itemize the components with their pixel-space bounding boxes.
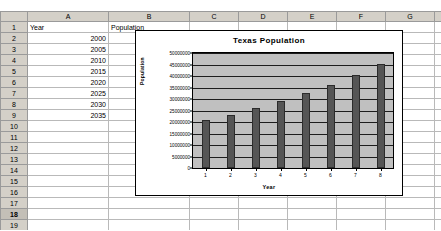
cell-h15[interactable] xyxy=(435,176,441,187)
row-header-17[interactable]: 17 xyxy=(1,198,28,209)
row-header-3[interactable]: 3 xyxy=(1,44,28,55)
row-header-10[interactable]: 10 xyxy=(1,121,28,132)
cell-c17[interactable] xyxy=(190,198,239,209)
cell-f18[interactable] xyxy=(337,209,386,220)
cell-h13[interactable] xyxy=(435,154,441,165)
chart-bar[interactable] xyxy=(227,115,235,168)
cell-a13[interactable] xyxy=(28,154,109,165)
row-header-16[interactable]: 16 xyxy=(1,187,28,198)
table-row[interactable]: 17 xyxy=(1,198,441,209)
cell-h3[interactable] xyxy=(435,44,441,55)
cell-a18[interactable] xyxy=(28,209,109,220)
row-header-2[interactable]: 2 xyxy=(1,33,28,44)
cell-h18[interactable] xyxy=(435,209,441,220)
table-row[interactable]: 19 xyxy=(1,220,441,231)
column-header-c[interactable]: C xyxy=(190,12,239,22)
cell-a12[interactable] xyxy=(28,143,109,154)
cell-h6[interactable] xyxy=(435,77,441,88)
column-header-d[interactable]: D xyxy=(239,12,288,22)
column-header-f[interactable]: F xyxy=(337,12,386,22)
cell-b18[interactable] xyxy=(109,209,190,220)
row-header-11[interactable]: 11 xyxy=(1,132,28,143)
cell-b17[interactable] xyxy=(109,198,190,209)
row-header-19[interactable]: 19 xyxy=(1,220,28,231)
cell-h12[interactable] xyxy=(435,143,441,154)
cell-f19[interactable] xyxy=(337,220,386,231)
embedded-chart[interactable]: Texas Population Population 500000004500… xyxy=(135,30,403,196)
cell-a11[interactable] xyxy=(28,132,109,143)
column-header-e[interactable]: E xyxy=(288,12,337,22)
select-all-corner[interactable] xyxy=(1,12,28,22)
cell-h1[interactable] xyxy=(435,22,441,33)
row-header-15[interactable]: 15 xyxy=(1,176,28,187)
cell-a19[interactable] xyxy=(28,220,109,231)
cell-c18[interactable] xyxy=(190,209,239,220)
cell-h9[interactable] xyxy=(435,110,441,121)
chart-x-tick-mark xyxy=(381,168,382,171)
cell-a16[interactable] xyxy=(28,187,109,198)
row-header-4[interactable]: 4 xyxy=(1,55,28,66)
cell-g19[interactable] xyxy=(386,220,435,231)
row-header-6[interactable]: 6 xyxy=(1,77,28,88)
chart-bar[interactable] xyxy=(277,101,285,168)
row-header-8[interactable]: 8 xyxy=(1,99,28,110)
cell-a10[interactable] xyxy=(28,121,109,132)
cell-a4[interactable]: 2010 xyxy=(28,55,109,66)
cell-b19[interactable] xyxy=(109,220,190,231)
cell-h8[interactable] xyxy=(435,99,441,110)
cell-e18[interactable] xyxy=(288,209,337,220)
row-header-14[interactable]: 14 xyxy=(1,165,28,176)
row-header-13[interactable]: 13 xyxy=(1,154,28,165)
column-header-a[interactable]: A xyxy=(28,12,109,22)
cell-a1[interactable]: Year xyxy=(28,22,109,33)
cell-h10[interactable] xyxy=(435,121,441,132)
column-header-g[interactable]: G xyxy=(386,12,435,22)
cell-a7[interactable]: 2025 xyxy=(28,88,109,99)
column-header-h[interactable]: H xyxy=(435,12,441,22)
column-header-b[interactable]: B xyxy=(109,12,190,22)
cell-d17[interactable] xyxy=(239,198,288,209)
cell-h11[interactable] xyxy=(435,132,441,143)
cell-h19[interactable] xyxy=(435,220,441,231)
cell-h5[interactable] xyxy=(435,66,441,77)
cell-e19[interactable] xyxy=(288,220,337,231)
cell-h4[interactable] xyxy=(435,55,441,66)
cell-a15[interactable] xyxy=(28,176,109,187)
cell-a5[interactable]: 2015 xyxy=(28,66,109,77)
cell-h14[interactable] xyxy=(435,165,441,176)
table-row[interactable]: 18 xyxy=(1,209,441,220)
row-header-9[interactable]: 9 xyxy=(1,110,28,121)
cell-d18[interactable] xyxy=(239,209,288,220)
chart-bar[interactable] xyxy=(202,120,210,168)
cell-h17[interactable] xyxy=(435,198,441,209)
cell-a6[interactable]: 2020 xyxy=(28,77,109,88)
chart-bar[interactable] xyxy=(327,85,335,168)
chart-bar[interactable] xyxy=(352,75,360,168)
cell-g18[interactable] xyxy=(386,209,435,220)
cell-a8[interactable]: 2030 xyxy=(28,99,109,110)
cell-c19[interactable] xyxy=(190,220,239,231)
cell-a2[interactable]: 2000 xyxy=(28,33,109,44)
row-header-18-active[interactable]: 18 xyxy=(1,209,28,220)
row-header-5[interactable]: 5 xyxy=(1,66,28,77)
chart-bar[interactable] xyxy=(252,108,260,168)
cell-h16[interactable] xyxy=(435,187,441,198)
row-header-1[interactable]: 1 xyxy=(1,22,28,33)
cell-g17[interactable] xyxy=(386,198,435,209)
column-header-row: A B C D E F G H xyxy=(1,12,441,22)
chart-x-tick-label: 6 xyxy=(329,172,332,178)
cell-d19[interactable] xyxy=(239,220,288,231)
cell-a9[interactable]: 2035 xyxy=(28,110,109,121)
cell-a14[interactable] xyxy=(28,165,109,176)
chart-bar[interactable] xyxy=(302,93,310,168)
chart-x-tick-label: 5 xyxy=(304,172,307,178)
cell-e17[interactable] xyxy=(288,198,337,209)
cell-h7[interactable] xyxy=(435,88,441,99)
row-header-12[interactable]: 12 xyxy=(1,143,28,154)
cell-a17[interactable] xyxy=(28,198,109,209)
cell-f17[interactable] xyxy=(337,198,386,209)
cell-a3[interactable]: 2005 xyxy=(28,44,109,55)
row-header-7[interactable]: 7 xyxy=(1,88,28,99)
cell-h2[interactable] xyxy=(435,33,441,44)
chart-bar[interactable] xyxy=(377,64,385,168)
